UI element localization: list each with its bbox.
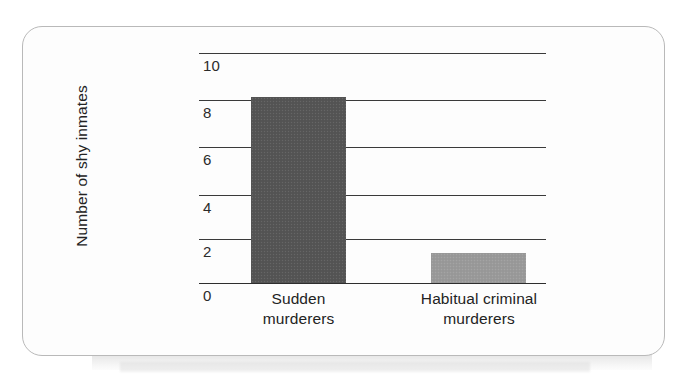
- bar-habitual-criminal-murderers: [431, 253, 526, 283]
- bar-fill: [251, 97, 346, 283]
- x-category-label-habitual-criminal-murderers: Habitual criminal murderers: [404, 289, 554, 329]
- x-category-label-sudden-murderers: Sudden murderers: [236, 289, 361, 329]
- y-tick-label-6: 6: [203, 152, 212, 167]
- gridline-10: [199, 53, 546, 54]
- axis-baseline-0: [199, 283, 546, 284]
- x-category-label-line-1: Habitual criminal: [404, 289, 554, 309]
- x-category-label-line-2: murderers: [236, 309, 361, 329]
- y-tick-label-4: 4: [203, 200, 212, 215]
- scan-artifact-smudge-secondary: [120, 362, 590, 372]
- y-tick-label-2: 2: [203, 244, 212, 259]
- y-axis-title: Number of shy inmates: [73, 51, 91, 281]
- scanned-page: Number of shy inmates 10 8 6 4 2 0: [0, 0, 680, 374]
- x-category-label-line-1: Sudden: [236, 289, 361, 309]
- figure-card: Number of shy inmates 10 8 6 4 2 0: [22, 26, 665, 356]
- y-tick-label-8: 8: [203, 105, 212, 120]
- bar-fill: [431, 253, 526, 283]
- bar-chart-plot-area: Number of shy inmates 10 8 6 4 2 0: [23, 27, 666, 357]
- x-category-label-line-2: murderers: [404, 309, 554, 329]
- y-tick-label-10: 10: [203, 58, 220, 73]
- bar-sudden-murderers: [251, 97, 346, 283]
- y-tick-label-0: 0: [203, 288, 212, 303]
